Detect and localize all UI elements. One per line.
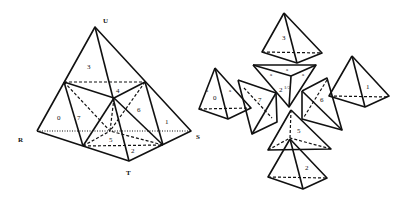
region-label-6: 6 <box>137 106 141 114</box>
svg-text:a: a <box>286 67 289 72</box>
svg-text:3: 3 <box>282 34 286 42</box>
region-label-5: 5 <box>109 136 113 144</box>
svg-text:a: a <box>302 72 305 77</box>
piece-7: 7 <box>238 80 277 134</box>
vertex-label-t: T <box>126 169 131 177</box>
region-label-0: 0 <box>57 114 61 122</box>
left-tetrahedron: U R S T 3 4 0 7 6 1 5 2 <box>18 17 200 177</box>
region-label-2: 2 <box>131 147 135 155</box>
piece-3: 3 <box>262 13 322 63</box>
svg-text:6: 6 <box>320 96 324 104</box>
region-label-4: 4 <box>116 87 120 95</box>
right-exploded: 3 0 a a 7 a a a 2 1/2 <box>199 13 389 189</box>
svg-text:7: 7 <box>258 96 262 104</box>
svg-text:2: 2 <box>305 164 309 172</box>
svg-text:a: a <box>206 88 209 93</box>
vertex-label-r: R <box>18 136 24 144</box>
region-label-3: 3 <box>87 63 91 71</box>
piece-1: 1 <box>329 56 389 107</box>
region-label-7: 7 <box>77 114 81 122</box>
svg-text:2: 2 <box>279 86 283 94</box>
piece-2: 2 <box>268 139 327 189</box>
piece-center: a a a 2 1/2 <box>253 65 316 107</box>
svg-text:a: a <box>229 88 232 93</box>
svg-text:1/2: 1/2 <box>284 85 291 90</box>
svg-text:1: 1 <box>366 83 370 91</box>
diagram-canvas: U R S T 3 4 0 7 6 1 5 2 3 0 a a <box>0 0 408 198</box>
vertex-label-s: S <box>196 133 200 141</box>
svg-text:5: 5 <box>297 127 301 135</box>
region-label-1: 1 <box>165 118 169 126</box>
svg-text:0: 0 <box>213 94 217 102</box>
piece-0: 0 a a <box>199 68 251 119</box>
svg-text:a: a <box>270 72 273 77</box>
piece-6: 6 <box>302 78 342 130</box>
vertex-label-u: U <box>103 17 108 25</box>
